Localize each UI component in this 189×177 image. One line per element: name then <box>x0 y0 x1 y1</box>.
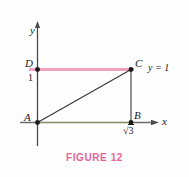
radicand-value: 3 <box>128 124 134 136</box>
point-c-dot <box>129 67 134 72</box>
y-axis-label: y <box>30 25 35 36</box>
line-equation-annotation: y = 1 <box>148 63 169 73</box>
segment-a-to-c <box>38 70 132 123</box>
y-axis-arrow-icon <box>35 21 40 28</box>
point-d-label: D <box>25 58 33 69</box>
x-axis-label: x <box>162 116 167 127</box>
y-tick-label-1: 1 <box>28 73 33 83</box>
point-c-label: C <box>135 58 142 69</box>
point-b-label: B <box>134 110 141 121</box>
point-a-dot <box>35 120 40 125</box>
figure-caption: FIGURE 12 <box>0 152 189 163</box>
x-tick-label-sqrt3: √3 <box>123 126 134 136</box>
coordinate-plot <box>0 0 189 177</box>
x-axis-arrow-icon <box>151 120 159 125</box>
figure-container: y x A B C D 1 √3 y = 1 FIGURE 12 <box>0 0 189 177</box>
point-d-dot <box>35 67 40 72</box>
point-a-label: A <box>24 112 31 123</box>
